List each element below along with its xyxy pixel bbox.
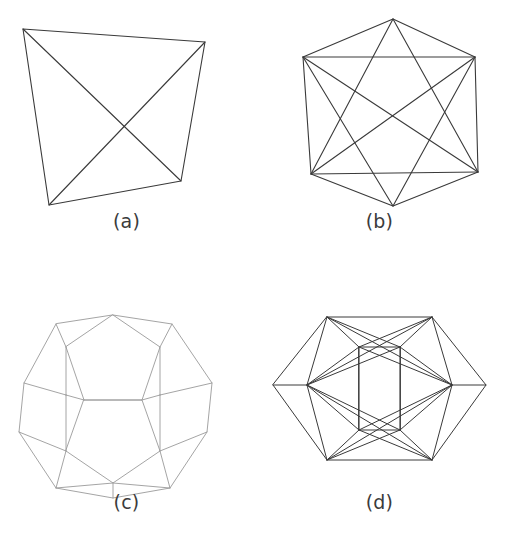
panel-dodecahedron: (c) (0, 275, 253, 549)
icosahedron-spoke-12 (432, 385, 452, 460)
octahedron-inner-edge-4 (393, 19, 478, 172)
dodecahedron-edges (19, 315, 212, 498)
platonic-solids-figure: (a) (b) (0, 0, 506, 549)
icosahedron-chord-4 (307, 385, 432, 460)
dodecahedron-left-upper-edge (24, 383, 66, 395)
icosahedron-spoke-5 (359, 317, 432, 347)
caption-b: (b) (253, 208, 506, 234)
dodecahedron-right-upper-edge (160, 383, 212, 395)
icosahedron-spoke-7 (327, 430, 359, 460)
tetrahedron-wireframe (0, 0, 253, 230)
dodecahedron-top-face (66, 315, 160, 400)
dodecahedron-wireframe (0, 275, 253, 505)
octahedron-inner-edge-6 (393, 57, 475, 206)
icosahedron-edges (273, 317, 486, 460)
icosahedron-spoke-3 (307, 317, 327, 385)
tetrahedron-diagonal-1 (23, 29, 181, 181)
icosahedron-inner-ur (400, 347, 452, 385)
octahedron-inner-edge-3 (311, 19, 393, 174)
dodecahedron-bottom-left-spoke (56, 451, 66, 488)
panel-octahedron: (b) (253, 0, 506, 274)
dodecahedron-right-lower-edge (160, 432, 207, 451)
octahedron-inner-edge-2 (311, 57, 475, 174)
icosahedron-wireframe (253, 275, 506, 505)
caption-a: (a) (0, 208, 253, 234)
panel-icosahedron: (d) (253, 275, 506, 549)
icosahedron-chord-1 (327, 317, 452, 385)
octahedron-outline (303, 19, 478, 206)
octahedron-inner-edge-5 (303, 57, 393, 206)
panel-tetrahedron: (a) (0, 0, 253, 274)
dodecahedron-spoke-2 (56, 324, 66, 347)
dodecahedron-outline (19, 315, 212, 498)
icosahedron-chord-3 (327, 385, 452, 460)
icosahedron-spoke-2 (327, 317, 400, 347)
dodecahedron-right-joint-a (142, 395, 160, 400)
icosahedron-spoke-6 (432, 317, 452, 385)
icosahedron-spoke-9 (307, 385, 327, 460)
dodecahedron-center-face (66, 400, 160, 483)
icosahedron-spoke-10 (400, 430, 432, 460)
icosahedron-inner-ll (307, 385, 359, 430)
caption-c: (c) (0, 489, 253, 515)
octahedron-edges (303, 19, 478, 206)
dodecahedron-left-joint-a (66, 395, 84, 400)
octahedron-wireframe (253, 0, 506, 230)
octahedron-chord-lower (311, 172, 478, 174)
caption-d: (d) (253, 489, 506, 515)
dodecahedron-bottom-right-spoke (160, 451, 170, 488)
dodecahedron-spoke-1 (160, 324, 172, 347)
icosahedron-inner-lr (400, 385, 452, 430)
icosahedron-inner-ul (307, 347, 359, 385)
tetrahedron-edges (23, 29, 205, 205)
icosahedron-chord-2 (307, 317, 432, 385)
dodecahedron-left-lower-edge (19, 432, 66, 451)
